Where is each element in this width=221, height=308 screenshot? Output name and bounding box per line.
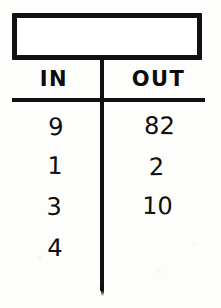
cell-out[interactable] bbox=[112, 226, 205, 266]
table-row: 4 bbox=[12, 226, 205, 266]
rule-box-text bbox=[17, 18, 197, 55]
rule-box[interactable] bbox=[12, 13, 202, 60]
cell-in[interactable]: 1 bbox=[13, 145, 98, 186]
table-row: 1 2 bbox=[12, 146, 205, 186]
table-body: 9 82 1 2 3 10 4 bbox=[12, 106, 205, 296]
cell-out[interactable]: 82 bbox=[113, 105, 207, 146]
cell-in[interactable]: 9 bbox=[13, 106, 98, 148]
table-row: 3 10 bbox=[12, 186, 205, 226]
table-row: 9 82 bbox=[12, 106, 205, 146]
cell-out[interactable]: 2 bbox=[110, 146, 204, 188]
header-underline bbox=[12, 98, 205, 102]
cell-in[interactable]: 4 bbox=[13, 228, 97, 269]
cell-in[interactable]: 3 bbox=[12, 187, 96, 228]
table-header-row: IN OUT bbox=[12, 62, 205, 96]
column-header-in: IN bbox=[12, 62, 96, 96]
cell-out[interactable]: 10 bbox=[111, 185, 205, 227]
worksheet-canvas: IN OUT 9 82 1 2 3 10 4 bbox=[0, 0, 221, 308]
column-header-out: OUT bbox=[112, 62, 205, 96]
